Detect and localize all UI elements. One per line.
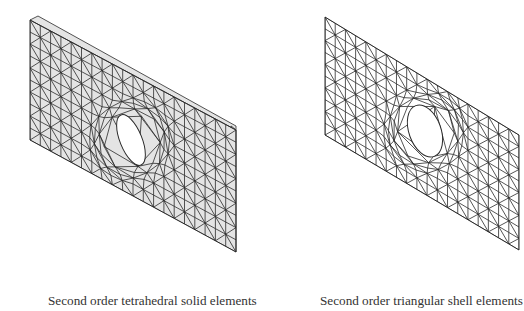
caption-shell-elements: Second order triangular shell elements (320, 293, 523, 309)
triangular-shell-mesh-plate (262, 0, 524, 311)
shell-element-figure: Second order triangular shell elements (262, 0, 524, 311)
tetrahedral-mesh-plate (0, 0, 262, 311)
caption-solid-elements: Second order tetrahedral solid elements (48, 293, 257, 309)
solid-element-figure: Second order tetrahedral solid elements (0, 0, 262, 311)
